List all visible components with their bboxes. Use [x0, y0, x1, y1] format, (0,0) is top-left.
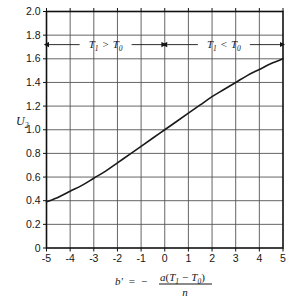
formula-denominator: n [182, 286, 188, 298]
x-tick-label: -3 [89, 252, 98, 264]
y-tick-label: 1.8 [26, 29, 41, 41]
x-tick-label: 1 [185, 252, 191, 264]
x-tick-label: 4 [256, 252, 262, 264]
x-tick-label: 3 [233, 252, 239, 264]
x-tick-label: -1 [136, 252, 145, 264]
y-tick-label: 1.2 [26, 100, 41, 112]
x-tick-label: 0 [162, 252, 168, 264]
x-tick-label: -5 [42, 252, 51, 264]
chart-canvas: 00.20.40.60.81.01.21.41.61.82.0 -5-4-3-2… [0, 0, 302, 301]
x-tick-label: -4 [65, 252, 74, 264]
x-tick-label: 5 [280, 252, 286, 264]
x-tick-label: -2 [113, 252, 122, 264]
y-tick-label: 1.4 [26, 76, 41, 88]
y-tick-label: 0.6 [26, 171, 41, 183]
y-tick-label: 2.0 [26, 5, 41, 17]
y-tick-label: 0 [35, 242, 41, 254]
y-tick-label: 0.2 [26, 218, 41, 230]
figure-container: 00.20.40.60.81.01.21.41.61.82.0 -5-4-3-2… [0, 0, 302, 301]
x-tick-label: 2 [209, 252, 215, 264]
y-tick-label: 0.4 [26, 194, 41, 206]
y-tick-label: 0.8 [26, 147, 41, 159]
formula-lhs: b'=− [115, 275, 147, 287]
y-tick-label: 1.6 [26, 52, 41, 64]
